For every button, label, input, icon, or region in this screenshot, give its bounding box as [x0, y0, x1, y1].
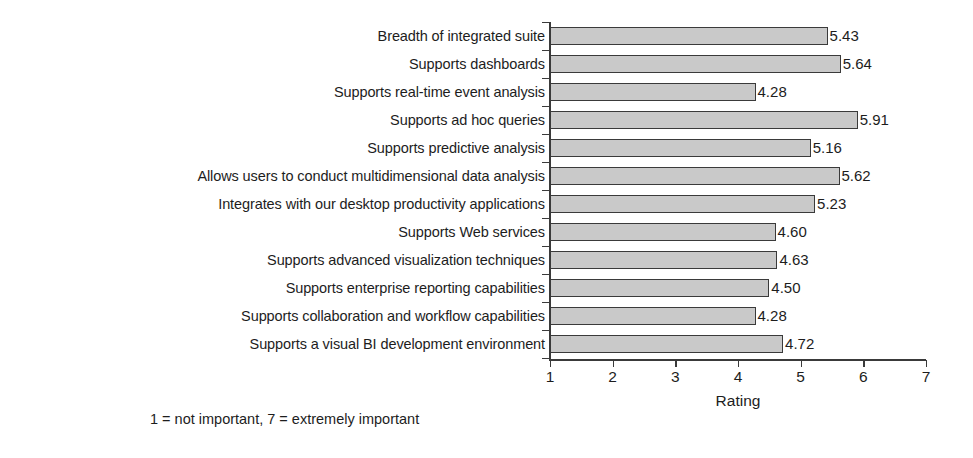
x-axis-tick-label: 5 — [786, 368, 816, 386]
chart-row: Supports ad hoc queries5.91 — [0, 106, 973, 134]
bar-container: 5.23 — [550, 195, 815, 213]
x-axis-tick-label: 3 — [660, 368, 690, 386]
bar-value-label: 5.43 — [828, 27, 859, 45]
y-axis-tick — [542, 106, 550, 107]
chart-row: Supports real-time event analysis4.28 — [0, 78, 973, 106]
bar-value-label: 4.72 — [783, 335, 814, 353]
bar — [550, 223, 776, 241]
bar — [550, 27, 828, 45]
category-label: Supports Web services — [398, 218, 545, 246]
x-axis-title: Rating — [550, 392, 926, 410]
category-label: Supports collaboration and workflow capa… — [241, 302, 545, 330]
chart-row: Supports collaboration and workflow capa… — [0, 302, 973, 330]
horizontal-bar-chart: Breadth of integrated suite5.43Supports … — [0, 0, 973, 458]
bar-value-label: 5.64 — [841, 55, 872, 73]
bar — [550, 83, 756, 101]
bar-container: 5.43 — [550, 27, 828, 45]
y-axis-tick — [542, 330, 550, 331]
bar — [550, 279, 769, 297]
y-axis-tick — [542, 190, 550, 191]
bar-container: 4.50 — [550, 279, 769, 297]
bar-value-label: 4.60 — [776, 223, 807, 241]
bar-container: 4.28 — [550, 83, 756, 101]
y-axis-tick — [542, 162, 550, 163]
x-axis-tick — [550, 360, 551, 367]
category-label: Supports ad hoc queries — [390, 106, 545, 134]
bar-container: 5.64 — [550, 55, 841, 73]
chart-row: Supports Web services4.60 — [0, 218, 973, 246]
chart-row: Breadth of integrated suite5.43 — [0, 22, 973, 50]
category-label: Allows users to conduct multidimensional… — [197, 162, 545, 190]
x-axis-tick — [675, 360, 676, 367]
category-label: Supports dashboards — [409, 50, 545, 78]
bar — [550, 55, 841, 73]
bar-value-label: 4.28 — [756, 83, 787, 101]
y-axis-tick — [542, 274, 550, 275]
bar — [550, 167, 840, 185]
bar — [550, 139, 811, 157]
bar-container: 4.63 — [550, 251, 777, 269]
bar-value-label: 4.50 — [769, 279, 800, 297]
x-axis-tick-label: 6 — [848, 368, 878, 386]
chart-row: Integrates with our desktop productivity… — [0, 190, 973, 218]
chart-row: Supports advanced visualization techniqu… — [0, 246, 973, 274]
x-axis-tick-label: 2 — [598, 368, 628, 386]
bar-value-label: 4.28 — [756, 307, 787, 325]
chart-row: Supports predictive analysis5.16 — [0, 134, 973, 162]
chart-footnote: 1 = not important, 7 = extremely importa… — [150, 411, 419, 427]
bar-container: 5.16 — [550, 139, 811, 157]
x-axis-tick — [863, 360, 864, 367]
category-label: Supports real-time event analysis — [334, 78, 545, 106]
chart-row: Supports dashboards5.64 — [0, 50, 973, 78]
x-axis-tick-label: 1 — [535, 368, 565, 386]
y-axis-tick — [542, 302, 550, 303]
y-axis-tick — [542, 22, 550, 23]
category-label: Supports enterprise reporting capabiliti… — [286, 274, 545, 302]
chart-row: Supports a visual BI development environ… — [0, 330, 973, 358]
y-axis-tick — [542, 358, 550, 359]
y-axis-tick — [542, 246, 550, 247]
x-axis-tick — [926, 360, 927, 367]
category-label: Integrates with our desktop productivity… — [218, 190, 545, 218]
y-axis-tick — [542, 78, 550, 79]
y-axis-tick — [542, 134, 550, 135]
category-label: Breadth of integrated suite — [378, 22, 545, 50]
x-axis-tick — [738, 360, 739, 367]
x-axis-tick — [801, 360, 802, 367]
bar-value-label: 5.91 — [858, 111, 889, 129]
category-label: Supports a visual BI development environ… — [250, 330, 545, 358]
bar-value-label: 5.16 — [811, 139, 842, 157]
bar-value-label: 4.63 — [777, 251, 808, 269]
bar-container: 4.60 — [550, 223, 776, 241]
category-label: Supports predictive analysis — [367, 134, 545, 162]
x-axis-tick-label: 4 — [723, 368, 753, 386]
bar-container: 4.28 — [550, 307, 756, 325]
chart-row: Supports enterprise reporting capabiliti… — [0, 274, 973, 302]
bar-container: 4.72 — [550, 335, 783, 353]
bar-value-label: 5.23 — [815, 195, 846, 213]
bar — [550, 111, 858, 129]
chart-row: Allows users to conduct multidimensional… — [0, 162, 973, 190]
category-label: Supports advanced visualization techniqu… — [267, 246, 545, 274]
x-axis-tick — [613, 360, 614, 367]
bar-container: 5.91 — [550, 111, 858, 129]
chart-rows: Breadth of integrated suite5.43Supports … — [0, 22, 973, 358]
x-axis-tick-label: 7 — [911, 368, 941, 386]
y-axis-tick — [542, 50, 550, 51]
y-axis-tick — [542, 218, 550, 219]
bar — [550, 307, 756, 325]
bar — [550, 195, 815, 213]
bar-container: 5.62 — [550, 167, 840, 185]
bar — [550, 335, 783, 353]
bar — [550, 251, 777, 269]
bar-value-label: 5.62 — [840, 167, 871, 185]
